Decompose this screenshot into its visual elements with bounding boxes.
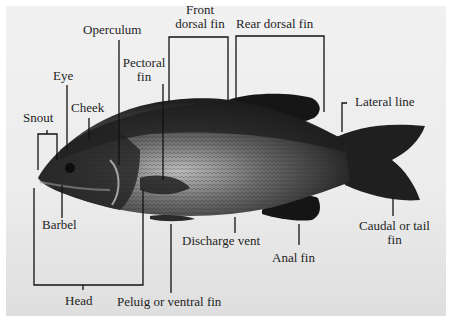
label-pelvic-fin: Peluig or ventral fin [117,295,221,309]
label-lateral-line: Lateral line [355,95,415,109]
label-front-dorsal-fin-line1: Front [164,3,236,17]
label-pectoral-fin-line2: fin [118,70,170,84]
label-eye: Eye [53,69,73,83]
label-cheek: Cheek [71,101,104,115]
label-rear-dorsal-fin: Rear dorsal fin [236,17,313,31]
label-anal-fin: Anal fin [272,251,315,265]
label-front-dorsal-fin-line2: dorsal fin [164,17,236,31]
fish-illustration [0,0,455,325]
label-caudal-fin-line2: fin [342,233,447,247]
label-caudal-fin-line1: Caudal or tail [342,219,447,233]
label-snout: Snout [23,111,53,125]
label-barbel: Barbel [42,218,77,232]
label-pectoral-fin-line1: Pectoral [118,56,170,70]
label-operculum: Operculum [83,23,141,37]
fish-anatomy-figure: Snout Eye Cheek Operculum Pectoral fin F… [0,0,455,325]
label-discharge-vent: Discharge vent [182,234,260,248]
label-head: Head [65,294,92,308]
eye-shape [65,163,75,173]
